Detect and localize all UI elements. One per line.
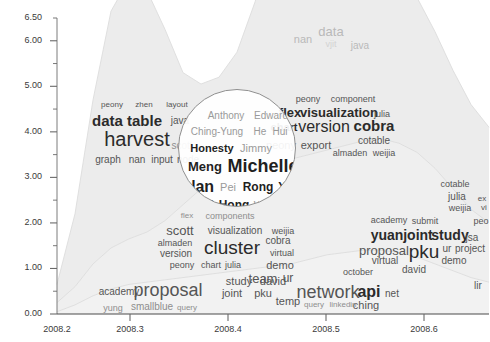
y-axis-ticks	[50, 18, 57, 314]
themeriver-visualization: 6.506.005.004.003.002.001.000.00 2008.22…	[0, 0, 490, 342]
y-tick-label: 2.00	[8, 217, 42, 227]
lens-name: Edward	[254, 111, 288, 121]
x-tick-label: 2008.3	[107, 324, 153, 334]
lens-name: Rong	[243, 181, 274, 193]
lens-name: Pei	[220, 182, 236, 193]
lens-name: Hong	[219, 199, 250, 207]
x-tick-label: 2008.2	[34, 324, 80, 334]
magnification-lens[interactable]: AnthonyEdwardChing-YungHeHuiHonestyJimmy…	[178, 89, 296, 207]
lens-name: Honesty	[190, 143, 233, 154]
y-tick-label: 1.00	[8, 262, 42, 272]
x-axis-ticks	[130, 314, 424, 321]
y-tick-label: 5.00	[8, 80, 42, 90]
lens-name: Meng	[188, 160, 222, 173]
y-tick-label: 4.00	[8, 126, 42, 136]
lens-name: Yao	[278, 181, 296, 193]
y-tick-label: 3.00	[8, 171, 42, 181]
lens-name: Wei	[192, 199, 213, 207]
y-tick-label: 0.00	[8, 308, 42, 318]
y-tick-label: 6.00	[8, 35, 42, 45]
lens-name: He	[254, 127, 267, 137]
lens-name: Anthony	[208, 111, 245, 121]
x-tick-label: 2008.5	[303, 324, 349, 334]
lens-name: Jimmy	[240, 143, 272, 154]
y-tick-label: 6.50	[8, 12, 42, 22]
lens-name: Hui	[272, 127, 287, 137]
lens-name: Michelle	[227, 157, 296, 175]
lens-name: Wei	[254, 200, 273, 208]
x-tick-label: 2008.6	[401, 324, 447, 334]
lens-name: Jia	[278, 200, 292, 208]
lens-name: Nan	[184, 179, 214, 195]
lens-name: Ching-Yung	[191, 127, 243, 137]
x-tick-label: 2008.4	[205, 324, 251, 334]
